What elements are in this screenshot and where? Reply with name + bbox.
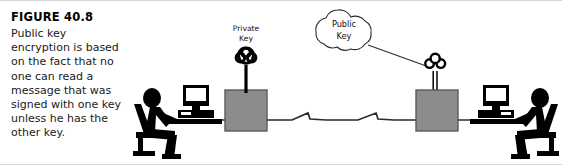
wan-zigzag-link <box>267 113 416 120</box>
figure-caption-block: FIGURE 40.8 Public key encryption is bas… <box>11 10 129 141</box>
left-computer-icon <box>168 85 222 124</box>
figure-container: FIGURE 40.8 Public key encryption is bas… <box>0 0 562 165</box>
public-key-cloud: Public Key <box>316 10 371 50</box>
figure-number-title: FIGURE 40.8 <box>11 10 129 24</box>
cloud-to-public-key-link <box>368 45 429 67</box>
public-key-label-line1: Public <box>332 19 356 29</box>
private-key-icon <box>236 48 256 93</box>
left-server-box <box>225 90 267 131</box>
figure-caption-text: Public key encryption is based on the fa… <box>11 27 127 141</box>
public-key-label-line2: Key <box>337 31 352 41</box>
diagram-canvas: Private Key Public Key <box>130 1 562 165</box>
private-key-label-line1: Private <box>233 24 260 33</box>
private-key-label-line2: Key <box>239 34 253 43</box>
public-key-icon <box>425 54 445 93</box>
right-server-box <box>416 90 458 131</box>
right-computer-icon <box>470 85 524 124</box>
